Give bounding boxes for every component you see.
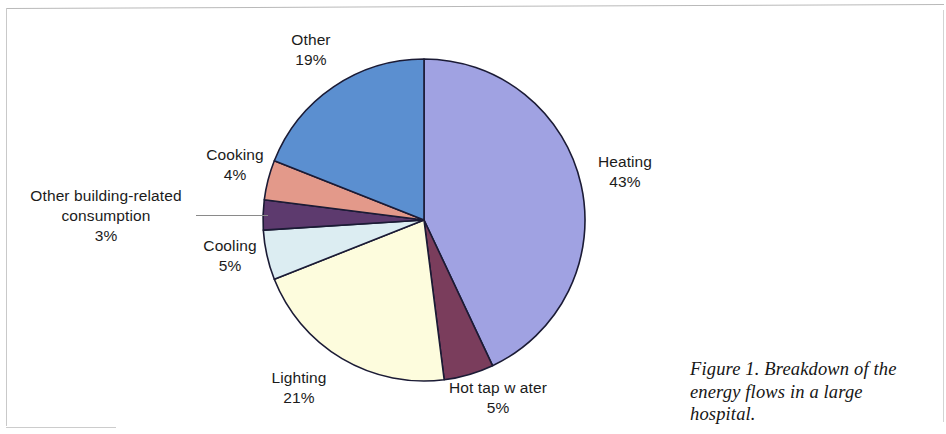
pie-label-cooling-name: Cooling [203,237,256,254]
leader-line-other-building [196,215,268,216]
pie-label-hot-tap-water-name: Hot tap w ater [449,379,547,396]
pie-label-other-building-related: Other building-related consumption 3% [16,186,196,245]
pie-label-other-value: 19% [256,50,366,70]
pie-slice-group [263,59,585,381]
pie-label-cooking-name: Cooking [206,146,264,163]
pie-label-lighting-value: 21% [244,388,354,408]
pie-label-heating-value: 43% [570,172,680,192]
pie-label-lighting: Lighting 21% [244,368,354,408]
pie-label-hot-tap-water-value: 5% [414,398,582,418]
figure-caption: Figure 1. Breakdown of the energy flows … [690,358,922,426]
pie-label-heating: Heating 43% [570,152,680,192]
pie-label-cooking: Cooking 4% [182,145,288,185]
pie-label-other: Other 19% [256,30,366,70]
pie-label-cooling-value: 5% [176,256,284,276]
pie-label-heating-name: Heating [598,153,652,170]
pie-label-cooking-value: 4% [182,165,288,185]
pie-label-hot-tap-water: Hot tap w ater 5% [414,378,582,418]
pie-label-cooling: Cooling 5% [176,236,284,276]
pie-label-other-building-related-value: 3% [16,226,196,246]
figure-page: Other 19% Cooking 4% Other building-rela… [0,0,946,434]
pie-label-other-name: Other [291,31,330,48]
pie-label-lighting-name: Lighting [271,369,326,386]
pie-label-other-building-related-name: Other building-related consumption [30,187,181,224]
